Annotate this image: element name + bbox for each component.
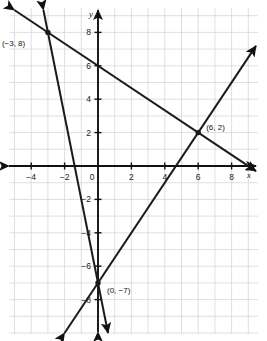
point-neg3-8-dot [45,30,50,35]
x-axis-label: x [246,170,251,180]
y-tick-label: 2 [86,128,91,138]
y-tick-label: −6 [81,261,91,271]
point-0-neg7-dot [95,280,100,285]
origin-label: 0 [90,172,95,182]
x-tick-label: 6 [196,172,201,182]
coordinate-plane-graph: −4−22468 8642−2−4−6−8 0 x y (−3, 8)(6, 2… [0,0,267,341]
x-tick-label: 2 [129,172,134,182]
point-6-2-dot [196,130,201,135]
graph-canvas: −4−22468 8642−2−4−6−8 0 x y (−3, 8)(6, 2… [0,0,267,341]
y-tick-label: 6 [86,61,91,71]
x-tick-label: 8 [229,172,234,182]
chart-background [0,0,267,341]
y-tick-label: 8 [86,27,91,37]
point-6-2-label: (6, 2) [206,123,225,132]
y-tick-label: 4 [86,94,91,104]
x-tick-label: −4 [26,172,36,182]
y-axis-label: y [88,9,93,19]
point-0-neg7-label: (0, −7) [107,286,131,295]
x-tick-label: −2 [60,172,70,182]
point-neg3-8-label: (−3, 8) [2,39,26,48]
